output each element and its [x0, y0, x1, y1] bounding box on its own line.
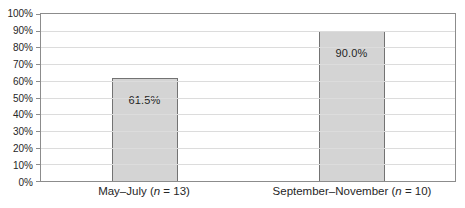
y-axis-tick [36, 14, 41, 15]
bar-may-july: 61.5% [112, 78, 178, 181]
y-axis-tick-label: 90% [13, 24, 33, 35]
y-axis-tick-label: 50% [13, 92, 33, 103]
y-axis-tick [36, 81, 41, 82]
gridline [41, 148, 455, 149]
y-axis-tick [36, 131, 41, 132]
y-axis-tick-label: 80% [13, 41, 33, 52]
y-axis-tick [36, 114, 41, 115]
y-axis-tick [36, 64, 41, 65]
x-label-text: September–November ( [273, 185, 396, 197]
y-axis-labels: 0%10%20%30%40%50%60%70%80%90%100% [0, 13, 33, 182]
y-axis-tick [36, 98, 41, 99]
gridline [41, 114, 455, 115]
y-axis-tick [36, 181, 41, 182]
x-axis-label-may-july: May–July (n = 13) [40, 185, 248, 197]
y-axis-tick [36, 148, 41, 149]
y-axis-tick [36, 31, 41, 32]
gridline [41, 164, 455, 165]
x-label-text: = 13) [160, 185, 190, 197]
y-axis-tick-label: 20% [13, 143, 33, 154]
y-axis-tick-label: 10% [13, 160, 33, 171]
y-axis-tick-label: 30% [13, 126, 33, 137]
gridline [41, 47, 455, 48]
y-axis-tick-label: 100% [7, 8, 33, 19]
gridline [41, 98, 455, 99]
y-axis-tick-label: 40% [13, 109, 33, 120]
x-axis-label-september-november: September–November (n = 10) [248, 185, 456, 197]
gridline [41, 64, 455, 65]
gridline [41, 131, 455, 132]
y-axis-tick-label: 60% [13, 75, 33, 86]
x-label-text: = 10) [402, 185, 432, 197]
x-axis-labels: May–July (n = 13) September–November (n … [40, 185, 456, 203]
gridline [41, 31, 455, 32]
bar-value-label: 90.0% [335, 47, 367, 59]
bar-value-label: 61.5% [128, 94, 160, 106]
bar-chart: 0%10%20%30%40%50%60%70%80%90%100% 61.5% … [0, 0, 465, 208]
y-axis-tick [36, 47, 41, 48]
y-axis-tick [36, 164, 41, 165]
gridline [41, 81, 455, 82]
y-axis-tick-label: 0% [19, 177, 33, 188]
y-axis-tick-label: 70% [13, 58, 33, 69]
bar-september-november: 90.0% [319, 31, 385, 181]
x-label-text: May–July ( [98, 185, 154, 197]
plot-area: 61.5% 90.0% [40, 13, 456, 182]
